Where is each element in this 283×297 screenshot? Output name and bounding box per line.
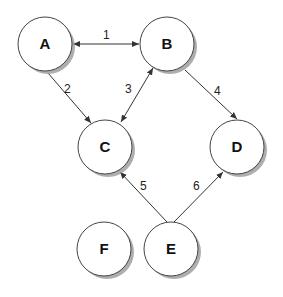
node-label-c: C: [100, 138, 111, 155]
graph-canvas: 1 2 3 4 5 6 A B C: [0, 0, 283, 297]
node-d[interactable]: D: [210, 120, 267, 177]
edges: 1 2 3 4 5 6: [48, 28, 237, 222]
node-b[interactable]: B: [140, 17, 197, 74]
node-label-f: F: [99, 240, 108, 257]
node-label-b: B: [162, 35, 173, 52]
node-a[interactable]: A: [18, 17, 75, 74]
edge-label-5: 5: [140, 179, 147, 193]
edge-label-6: 6: [193, 179, 200, 193]
edge-label-2: 2: [64, 82, 71, 96]
node-c[interactable]: C: [78, 120, 135, 177]
node-label-d: D: [232, 138, 243, 155]
edge-2: [48, 73, 91, 123]
edge-4: [185, 70, 237, 119]
node-label-e: E: [166, 240, 176, 257]
nodes: A B C D F E: [18, 17, 267, 279]
edge-label-4: 4: [214, 84, 221, 98]
edge-label-1: 1: [103, 28, 110, 42]
node-f[interactable]: F: [77, 222, 134, 279]
node-label-a: A: [40, 35, 51, 52]
node-e[interactable]: E: [144, 222, 201, 279]
edge-label-3: 3: [125, 82, 132, 96]
